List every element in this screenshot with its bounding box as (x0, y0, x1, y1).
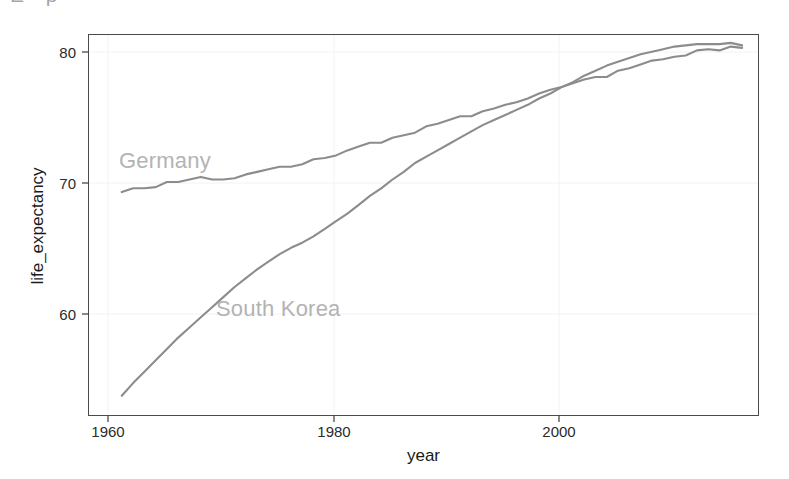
x-axis-title: year (88, 446, 759, 466)
ytick-label-80-wrap: 80 (0, 44, 76, 60)
y-axis-title: life_expectancy (28, 111, 48, 341)
life-expectancy-line-chart: E p 80 70 (0, 0, 789, 479)
plot-vector-layer (0, 0, 789, 479)
xtick-label-1980-wrap: 1980 (299, 423, 369, 441)
xtick-label-1960: 1960 (91, 423, 124, 440)
series-line-germany (122, 47, 742, 193)
xtick-label-1960-wrap: 1960 (73, 423, 143, 441)
xtick-label-2000-wrap: 2000 (524, 423, 594, 441)
series-label-germany: Germany (119, 148, 211, 174)
series-line-south-korea (122, 43, 742, 396)
axis-tick-marks (82, 52, 559, 422)
xtick-label-2000: 2000 (542, 423, 575, 440)
ytick-label-80: 80 (0, 44, 76, 61)
series-label-south-korea: South Korea (216, 296, 341, 322)
xtick-label-1980: 1980 (317, 423, 350, 440)
grid-lines (89, 35, 758, 415)
